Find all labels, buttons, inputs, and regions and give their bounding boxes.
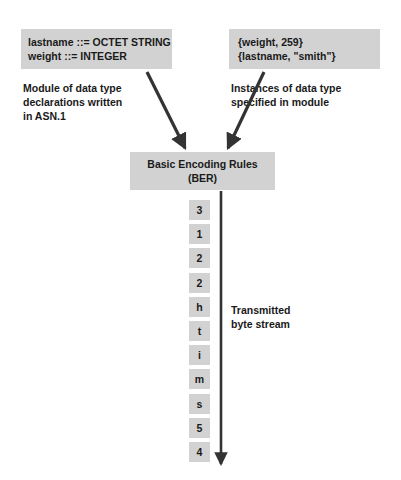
byte-cell: h (189, 297, 210, 317)
declaration-caption: Module of data type declarations written… (23, 81, 163, 123)
ber-encoder-box: Basic Encoding Rules (BER) (130, 152, 275, 190)
diagram-canvas: lastname ::= OCTET STRING weight ::= INT… (0, 0, 401, 480)
byte-cell: 1 (189, 224, 210, 244)
instance-caption: Instances of data type specified in modu… (231, 81, 381, 109)
declaration-line-2: weight ::= INTEGER (28, 50, 172, 64)
byte-cell: i (189, 345, 210, 365)
byte-cell: m (189, 369, 210, 389)
byte-cell: 4 (189, 442, 210, 462)
byte-cell: s (189, 394, 210, 414)
byte-cell: 5 (189, 418, 210, 438)
instance-line-1: {weight, 259} (238, 36, 380, 50)
instance-caption-line-2: specified in module (231, 95, 381, 109)
declaration-caption-line-2: declarations written (23, 95, 163, 109)
byte-stream-caption-line-1: Transmitted (231, 303, 341, 317)
asn1-declaration-box: lastname ::= OCTET STRING weight ::= INT… (21, 29, 172, 69)
byte-stream-caption: Transmitted byte stream (231, 303, 341, 331)
declaration-caption-line-3: in ASN.1 (23, 109, 163, 123)
byte-cell: t (189, 321, 210, 341)
byte-cell: 3 (189, 200, 210, 220)
declaration-caption-line-1: Module of data type (23, 81, 163, 95)
ber-acronym: (BER) (188, 171, 217, 185)
instance-caption-line-1: Instances of data type (231, 81, 381, 95)
byte-cell: 2 (189, 273, 210, 293)
instance-line-2: {lastname, "smith"} (238, 50, 380, 64)
byte-stream-caption-line-2: byte stream (231, 317, 341, 331)
byte-cell: 2 (189, 248, 210, 268)
ber-title: Basic Encoding Rules (147, 157, 257, 171)
declaration-line-1: lastname ::= OCTET STRING (28, 36, 172, 50)
data-instance-box: {weight, 259} {lastname, "smith"} (229, 29, 380, 69)
